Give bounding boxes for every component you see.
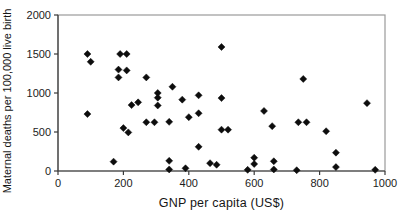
data-point-marker <box>300 75 307 82</box>
data-point-marker <box>261 107 268 114</box>
data-point-marker <box>270 158 277 165</box>
data-point-marker <box>270 166 277 173</box>
x-tick-label: 400 <box>180 177 198 189</box>
data-point-marker <box>87 58 94 65</box>
data-point-marker <box>251 154 258 161</box>
data-point-marker <box>218 126 225 133</box>
data-point-marker <box>269 123 276 130</box>
data-point-marker <box>364 100 371 107</box>
y-tick-label: 1500 <box>27 48 51 60</box>
data-point-marker <box>195 110 202 117</box>
x-tick-label: 600 <box>245 177 263 189</box>
data-point-marker <box>251 160 258 167</box>
data-point-marker <box>179 96 186 103</box>
x-tick-label: 1000 <box>373 177 397 189</box>
data-point-marker <box>244 166 251 173</box>
data-point-marker <box>218 95 225 102</box>
data-point-marker <box>84 111 91 118</box>
data-point-marker <box>303 119 310 126</box>
plot-canvas: 050010001500200002004006008001000 <box>0 0 406 217</box>
data-point-marker <box>166 157 173 164</box>
data-point-marker <box>225 126 232 133</box>
data-point-marker <box>323 128 330 135</box>
y-tick-label: 0 <box>45 165 51 177</box>
data-point-marker <box>115 66 122 73</box>
data-point-marker <box>372 166 379 173</box>
data-point-marker <box>166 166 173 173</box>
data-point-marker <box>135 99 142 106</box>
data-point-marker <box>218 43 225 50</box>
data-point-marker <box>169 83 176 90</box>
plot-frame <box>58 15 385 171</box>
data-point-marker <box>115 74 122 81</box>
data-point-marker <box>151 119 158 126</box>
data-point-marker <box>143 119 150 126</box>
data-point-marker <box>166 118 173 125</box>
data-point-marker <box>207 160 214 167</box>
data-point-marker <box>332 149 339 156</box>
data-point-marker <box>84 51 91 58</box>
y-axis-title: Maternal deaths per 100,000 live birth <box>1 3 17 199</box>
data-point-marker <box>332 164 339 171</box>
y-tick-label: 2000 <box>27 9 51 21</box>
data-point-marker <box>154 94 161 101</box>
data-point-marker <box>293 167 300 174</box>
data-point-marker <box>117 51 124 58</box>
y-tick-label: 1000 <box>27 87 51 99</box>
data-point-marker <box>110 158 117 165</box>
data-point-marker <box>125 129 132 136</box>
scatter-chart: 050010001500200002004006008001000 Matern… <box>0 0 406 217</box>
data-point-marker <box>295 119 302 126</box>
y-tick-label: 500 <box>33 126 51 138</box>
data-point-marker <box>123 67 130 74</box>
x-axis-title: GNP per capita (US$) <box>58 196 385 210</box>
data-point-marker <box>128 102 135 109</box>
data-point-marker <box>143 74 150 81</box>
data-point-marker <box>195 92 202 99</box>
data-point-marker <box>213 161 220 168</box>
x-tick-label: 200 <box>114 177 132 189</box>
data-point-marker <box>123 51 130 58</box>
x-tick-label: 0 <box>55 177 61 189</box>
data-point-marker <box>195 143 202 150</box>
data-point-marker <box>154 102 161 109</box>
data-point-marker <box>120 125 127 132</box>
x-tick-label: 800 <box>310 177 328 189</box>
data-point-marker <box>185 114 192 121</box>
